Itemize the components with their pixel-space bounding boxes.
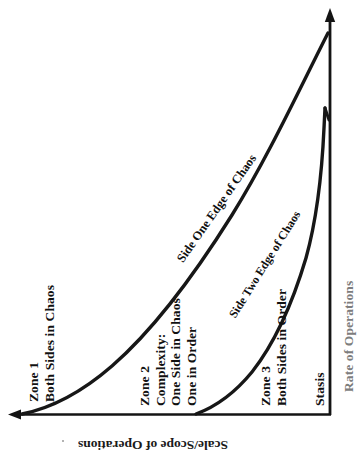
stasis-label: Stasis [312,372,328,406]
scan-artifact-speck [62,440,64,442]
zone-1-label: Zone 1 Both Sides in Chaos [26,285,57,402]
zone-2-detail-line-1: One Side in Chaos [168,298,184,406]
zone-3-label: Zone 3 Both Sides in Order [258,289,289,406]
zone-2-detail-line-2: One in Order [184,298,200,406]
zone-1-name: Zone 1 [26,285,42,402]
zone-2-label: Zone 2 Complexity: One Side in Chaos One… [137,298,200,406]
zone-3-description: Both Sides in Order [274,289,290,406]
stasis-text: Stasis [312,372,328,406]
zone-1-description: Both Sides in Chaos [42,285,58,402]
vertical-axis-label-text: Rate of Operations [341,281,357,392]
vertical-axis-label: Rate of Operations [341,281,357,392]
zone-2-complexity-line: Complexity: [153,298,169,406]
zone-3-name: Zone 3 [258,289,274,406]
horizontal-axis-label: Scale/Scope of Operations [78,437,228,453]
zone-2-name: Zone 2 [137,298,153,406]
baseline-axis [8,410,331,420]
value-axis [325,8,335,415]
